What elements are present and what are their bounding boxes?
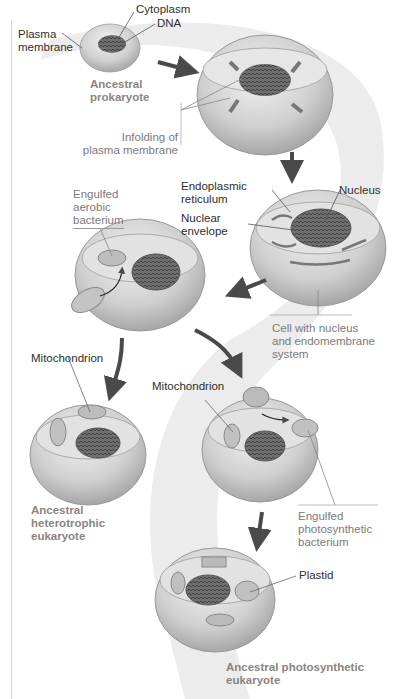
label-nucleus: Nucleus bbox=[339, 184, 381, 197]
label-engulfed-photo-2: photosynthetic bbox=[298, 523, 372, 536]
label-engulfed-photo-3: bacterium bbox=[298, 536, 349, 549]
photosynthetic-cell bbox=[155, 548, 275, 652]
label-plasma-membrane-2: membrane bbox=[18, 41, 73, 54]
label-dna: DNA bbox=[157, 17, 181, 30]
label-mitochondrion-left: Mitochondrion bbox=[31, 352, 103, 365]
label-ancestral-prokaryote-2: prokaryote bbox=[90, 91, 149, 104]
prokaryote-cell bbox=[80, 24, 140, 72]
label-photosynthetic-1: Ancestral photosynthetic bbox=[226, 661, 364, 674]
label-cell-nucleus-3: system bbox=[272, 348, 308, 361]
label-engulfed-photo-1: Engulfed bbox=[298, 510, 343, 523]
label-engulfed-aerobic-3: bacterium bbox=[73, 214, 124, 229]
label-ancestral-prokaryote-1: Ancestral bbox=[90, 78, 142, 91]
label-engulfed-aerobic-2: aerobic bbox=[73, 201, 111, 214]
label-engulfed-aerobic-1: Engulfed bbox=[73, 188, 118, 201]
infolding-cell bbox=[197, 35, 333, 155]
label-mitochondrion-right: Mitochondrion bbox=[152, 380, 224, 393]
diagram-art bbox=[0, 0, 397, 699]
heterotroph-cell bbox=[30, 405, 146, 505]
label-cell-nucleus-1: Cell with nucleus bbox=[272, 322, 358, 335]
label-er-2: reticulum bbox=[181, 193, 228, 206]
label-infolding-2: plasma membrane bbox=[60, 144, 178, 157]
label-plastid: Plastid bbox=[299, 569, 334, 582]
label-plasma-membrane-1: Plasma bbox=[18, 28, 56, 41]
label-photosynthetic-2: eukaryote bbox=[226, 674, 280, 687]
label-cytoplasm: Cytoplasm bbox=[136, 3, 190, 16]
label-heterotroph-1: Ancestral bbox=[31, 504, 83, 517]
label-er-1: Endoplasmic bbox=[181, 180, 247, 193]
label-cell-nucleus-2: and endomembrane bbox=[272, 335, 375, 348]
endomembrane-cell bbox=[250, 190, 386, 306]
label-heterotroph-2: heterotrophic bbox=[31, 517, 105, 530]
label-heterotroph-3: eukaryote bbox=[31, 530, 85, 543]
label-infolding-1: Infolding of bbox=[80, 131, 178, 144]
label-nuclear-envelope-1: Nuclear bbox=[181, 212, 221, 225]
label-nuclear-envelope-2: envelope bbox=[181, 225, 228, 238]
